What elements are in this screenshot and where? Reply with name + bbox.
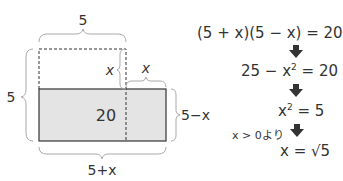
bottom-brace (39, 147, 166, 159)
added-width-label: x (141, 60, 151, 76)
step3-base: x (278, 102, 287, 120)
down-arrow-icon (289, 45, 303, 58)
equation-step-4: x = √5 (280, 142, 330, 160)
down-arrow-icon (289, 84, 303, 97)
right-height-label: 5−x (181, 107, 210, 123)
step2-rhs: = 20 (297, 62, 338, 80)
right-brace (171, 89, 180, 141)
top-brace (39, 29, 126, 42)
added-width-brace (126, 77, 166, 87)
down-arrow-icon (290, 124, 304, 137)
bottom-width-label: 5+x (88, 162, 117, 178)
left-brace (21, 49, 33, 141)
top-width-label: 5 (79, 12, 88, 28)
cut-height-brace (117, 49, 126, 89)
step3-rhs: = 5 (293, 102, 325, 120)
step2-base: 25 − x (241, 62, 291, 80)
condition-label: x > 0より (232, 126, 284, 142)
area-label: 20 (96, 106, 116, 125)
equation-step-1: (5 + x)(5 − x) = 20 (197, 24, 343, 42)
equation-step-3: x2 = 5 (278, 102, 324, 120)
left-height-label: 5 (7, 89, 16, 105)
equation-step-2: 25 − x2 = 20 (241, 62, 338, 80)
cut-height-label: x (105, 62, 115, 78)
